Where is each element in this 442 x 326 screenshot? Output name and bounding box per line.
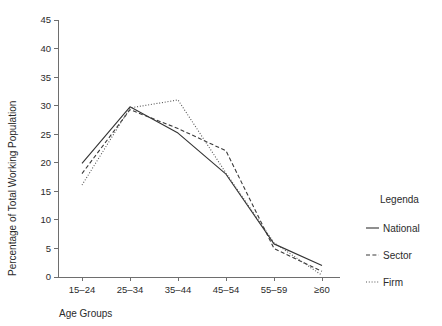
x-tick-label: 35–44	[165, 284, 191, 295]
x-axis-ticks: 15–2425–3435–4445–5455–59≥60	[69, 277, 330, 295]
y-tick-label: 40	[40, 43, 51, 54]
legend-label-firm: Firm	[383, 277, 403, 288]
y-axis-ticks: 051015202530354045	[40, 14, 58, 282]
legend-items: NationalSectorFirm	[366, 223, 420, 288]
y-tick-label: 10	[40, 214, 51, 225]
line-chart: 051015202530354045 15–2425–3435–4445–545…	[0, 0, 442, 326]
x-tick-label: 15–24	[69, 284, 95, 295]
y-tick-label: 45	[40, 14, 51, 25]
y-tick-label: 20	[40, 157, 51, 168]
x-axis-group: 15–2425–3435–4445–5455–59≥60	[58, 277, 340, 295]
x-axis-title: Age Groups	[59, 308, 112, 319]
x-tick-label: 55–59	[261, 284, 287, 295]
y-tick-label: 25	[40, 129, 51, 140]
chart-container: 051015202530354045 15–2425–3435–4445–545…	[0, 0, 442, 326]
chart-legend: Legenda NationalSectorFirm	[366, 194, 420, 288]
y-tick-label: 35	[40, 72, 51, 83]
legend-title: Legenda	[380, 194, 419, 205]
legend-label-sector: Sector	[383, 250, 413, 261]
y-tick-label: 15	[40, 186, 51, 197]
y-tick-label: 5	[46, 243, 51, 254]
series-line-national	[82, 107, 322, 266]
x-tick-label: 45–54	[213, 284, 239, 295]
y-axis-title: Percentage of Total Working Population	[7, 101, 18, 276]
legend-label-national: National	[383, 223, 420, 234]
x-tick-label: 25–34	[117, 284, 143, 295]
x-tick-label: ≥60	[314, 284, 330, 295]
series-line-sector	[82, 110, 322, 272]
y-tick-label: 30	[40, 100, 51, 111]
series-layer	[82, 100, 322, 275]
y-tick-label: 0	[46, 271, 51, 282]
y-axis-group: 051015202530354045	[40, 14, 58, 282]
